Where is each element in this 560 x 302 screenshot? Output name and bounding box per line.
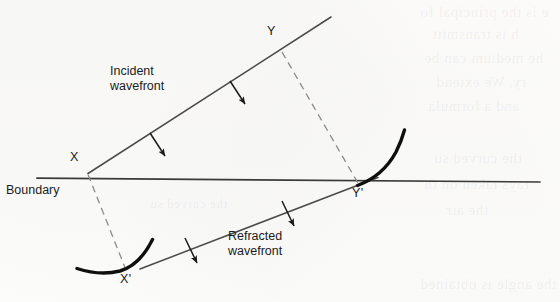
construction-ray-x-to-xprime <box>88 175 126 271</box>
huygens-wavelet-arc-yprime <box>358 130 405 186</box>
point-label-x-prime: X' <box>120 272 131 286</box>
construction-ray-y-to-yprime <box>282 52 359 184</box>
boundary-line <box>37 178 540 182</box>
incident-direction-arrow-1 <box>150 133 165 156</box>
incident-wavefront-label-line2: wavefront <box>110 79 164 94</box>
refracted-wavefront-label-line1: Refracted <box>228 229 282 244</box>
point-label-y-prime: Y' <box>352 186 363 200</box>
point-label-x: X <box>70 150 79 164</box>
incident-wavefront-label: Incident wavefront <box>110 64 164 93</box>
incident-direction-arrow-2 <box>230 81 245 104</box>
boundary-label: Boundary <box>6 183 60 198</box>
incident-wavefront-label-line1: Incident <box>110 64 164 79</box>
incident-wavefront-line <box>88 17 331 174</box>
refraction-wavefront-figure: e is the principal fo h is transmitt he … <box>0 0 560 302</box>
refracted-wavefront-label-line2: wavefront <box>228 244 282 259</box>
point-label-y: Y <box>267 24 276 38</box>
refracted-wavefront-label: Refracted wavefront <box>228 229 282 258</box>
